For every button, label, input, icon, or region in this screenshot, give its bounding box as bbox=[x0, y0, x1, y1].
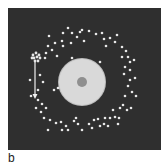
arrow-head-icon bbox=[33, 94, 38, 99]
particle-dot bbox=[109, 37, 112, 40]
cluster-dot bbox=[36, 56, 39, 59]
particle-dot bbox=[61, 40, 64, 43]
particle-dot bbox=[119, 107, 122, 110]
particle-dot bbox=[112, 109, 115, 112]
particle-dot bbox=[109, 117, 112, 120]
particle-dot bbox=[29, 79, 32, 82]
particle-dot bbox=[45, 107, 48, 110]
particle-dot bbox=[55, 122, 58, 125]
particle-dot bbox=[122, 104, 125, 107]
particle-dot bbox=[131, 91, 134, 94]
particle-dot bbox=[81, 29, 84, 32]
particle-dot bbox=[104, 117, 107, 120]
particle-dot bbox=[67, 27, 70, 30]
particle-dot bbox=[48, 35, 51, 38]
particle-dot bbox=[95, 33, 98, 36]
particle-dot bbox=[76, 36, 79, 39]
particle-dot bbox=[47, 45, 50, 48]
particle-dot bbox=[114, 41, 117, 44]
particle-dot bbox=[123, 73, 126, 76]
particle-dot bbox=[42, 81, 45, 84]
particle-dot bbox=[130, 107, 133, 110]
particle-dot bbox=[127, 56, 130, 59]
particle-dot bbox=[121, 56, 124, 59]
particle-dot bbox=[99, 61, 102, 64]
particle-dot bbox=[79, 31, 82, 34]
particle-dot bbox=[37, 89, 40, 92]
cell-diagram bbox=[8, 8, 161, 150]
particle-dot bbox=[88, 30, 91, 33]
particle-dot bbox=[61, 129, 64, 132]
particle-dot bbox=[65, 125, 68, 128]
particle-dot bbox=[134, 77, 137, 80]
particle-dot bbox=[75, 117, 78, 120]
particle-dot bbox=[81, 129, 84, 132]
particle-dot bbox=[47, 129, 50, 132]
particle-dot bbox=[43, 117, 46, 120]
particle-dot bbox=[67, 129, 70, 132]
particle-dot bbox=[129, 61, 132, 64]
particle-dot bbox=[35, 107, 38, 110]
particle-dot bbox=[51, 49, 54, 52]
cluster-dot bbox=[39, 57, 42, 60]
particle-dot bbox=[60, 121, 63, 124]
particle-dot bbox=[73, 120, 76, 123]
particle-dot bbox=[133, 59, 136, 62]
particle-dot bbox=[71, 32, 74, 35]
particle-dot bbox=[45, 52, 48, 55]
cluster-dot bbox=[37, 60, 40, 63]
particle-dot bbox=[127, 85, 130, 88]
cluster-dot bbox=[35, 52, 38, 55]
particle-dot bbox=[77, 123, 80, 126]
particle-dot bbox=[88, 123, 91, 126]
particle-dot bbox=[54, 42, 57, 45]
particle-dot bbox=[71, 57, 74, 60]
cluster-dot bbox=[34, 60, 37, 63]
cluster-dot bbox=[38, 54, 41, 57]
particle-dot bbox=[39, 74, 42, 77]
particle-dot bbox=[70, 42, 73, 45]
cluster-dot bbox=[31, 57, 34, 60]
particle-dot bbox=[124, 66, 127, 69]
particle-dot bbox=[125, 50, 128, 53]
particle-dot bbox=[30, 95, 33, 98]
particle-dot bbox=[62, 45, 65, 48]
particle-dot bbox=[101, 32, 104, 35]
particle-dot bbox=[49, 119, 52, 122]
particle-dot bbox=[107, 125, 110, 128]
particle-dot bbox=[103, 123, 106, 126]
particle-dot bbox=[124, 95, 127, 98]
particle-dot bbox=[62, 32, 65, 35]
particle-dot bbox=[97, 118, 100, 121]
panel-label: b bbox=[8, 151, 15, 165]
particle-dot bbox=[116, 34, 119, 37]
cluster-dot bbox=[32, 54, 35, 57]
particle-dot bbox=[57, 87, 60, 90]
particle-dot bbox=[93, 119, 96, 122]
particle-dot bbox=[83, 40, 86, 43]
particle-dot bbox=[103, 38, 106, 41]
particle-dot bbox=[41, 103, 44, 106]
particle-dot bbox=[129, 79, 132, 82]
particle-dot bbox=[91, 127, 94, 130]
particle-dot bbox=[129, 69, 132, 72]
particle-dot bbox=[56, 55, 59, 58]
particle-dot bbox=[118, 117, 121, 120]
particle-dot bbox=[126, 109, 129, 112]
particle-dot bbox=[117, 123, 120, 126]
particle-dot bbox=[121, 46, 124, 49]
particle-dot bbox=[114, 116, 117, 119]
particle-dot bbox=[53, 89, 56, 92]
particle-dot bbox=[44, 57, 47, 60]
particle-dot bbox=[40, 111, 43, 114]
particle-dot bbox=[37, 99, 40, 102]
particle-dot bbox=[105, 45, 108, 48]
microscopy-panel bbox=[8, 8, 161, 150]
particle-dot bbox=[99, 125, 102, 128]
particle-dot bbox=[135, 95, 138, 98]
sphere-nucleus bbox=[77, 77, 87, 87]
